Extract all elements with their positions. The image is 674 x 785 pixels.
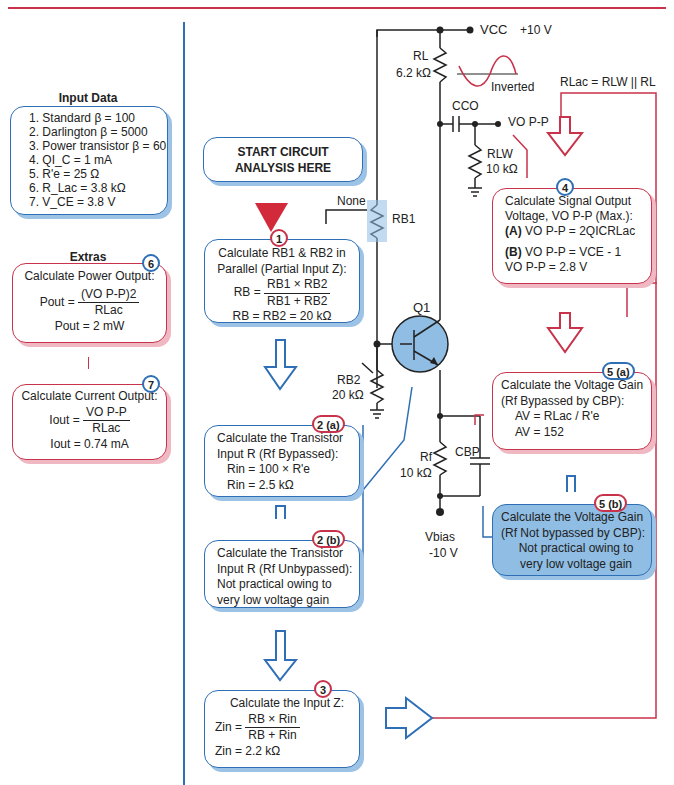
- q1-label: Q1: [413, 300, 430, 315]
- step5a-line1: Calculate the Voltage Gain: [501, 378, 651, 394]
- step7-box: Calculate Current Output: Iout = VO P-PR…: [12, 384, 167, 460]
- inverted-label: Inverted: [491, 80, 534, 94]
- step6-heading: Calculate Power Output:: [13, 269, 166, 285]
- step5a-eq2: AV = 152: [501, 425, 651, 441]
- rb1-label: RB1: [392, 212, 415, 226]
- step4-line1: Calculate Signal Output: [505, 194, 651, 209]
- input-item: 7. V_CE = 3.8 V: [29, 195, 167, 209]
- step5a-badge: 5 (a): [602, 362, 635, 380]
- cbp-label: CBP: [455, 445, 480, 459]
- step1-fraction: RB1 × RB2RB1 + RB2: [264, 277, 330, 309]
- step2a-box: Calculate the Transistor Input R (Rf Byp…: [204, 425, 360, 497]
- start-line2: ANALYSIS HERE: [204, 161, 362, 177]
- cco-label: CCO: [452, 99, 479, 113]
- input-item: 6. R_Lac = 3.8 kΩ: [29, 181, 167, 195]
- step6-badge: 6: [142, 254, 160, 272]
- step1-badge: 1: [270, 229, 288, 247]
- step5b-line1: Calculate the Voltage Gain: [501, 510, 651, 526]
- step7-lhs: Iout =: [49, 413, 79, 427]
- rf-label: Rf: [420, 450, 432, 464]
- step7-badge: 7: [142, 375, 160, 393]
- step2b-line1: Calculate the Transistor: [217, 546, 359, 562]
- step6-lhs: Pout =: [40, 295, 75, 309]
- step7-fraction: VO P-PRLac: [83, 405, 130, 437]
- step3-fraction: RB × RinRB + Rin: [245, 712, 299, 744]
- none-label: None: [337, 194, 366, 208]
- step4-line2: Voltage, VO P-P (Max.):: [505, 209, 651, 224]
- step5a-box: Calculate the Voltage Gain (Rf Bypassed …: [492, 372, 652, 450]
- input-item: 1. Standard β = 100: [29, 111, 167, 125]
- step7-heading: Calculate Current Output:: [13, 389, 166, 405]
- rlw-value: 10 kΩ: [486, 162, 518, 176]
- step2b-line3: Not practical owing to: [217, 577, 359, 593]
- step3-badge: 3: [314, 680, 332, 698]
- rlac-formula: RLac = RLW || RL: [560, 75, 656, 89]
- rl-value: 6.2 kΩ: [396, 66, 431, 80]
- step1-box: Calculate RB1 & RB2 in Parallel (Partial…: [204, 239, 360, 323]
- step1-result: RB = RB2 = 20 kΩ: [205, 309, 359, 325]
- step6-result: Pout = 2 mW: [13, 319, 166, 335]
- step2b-line4: very low voltage gain: [217, 593, 359, 609]
- step4-box: Calculate Signal Output Voltage, VO P-P …: [492, 188, 652, 284]
- input-item: 3. Power transistor β = 60: [29, 139, 167, 153]
- rlw-label: RLW: [487, 147, 513, 161]
- step5b-line3: Not practical owing to: [501, 541, 651, 557]
- step3-box: Calculate the Input Z: Zin = RB × RinRB …: [204, 690, 360, 768]
- step2a-line1: Calculate the Transistor: [217, 431, 359, 447]
- step4-eqB-label: (B): [505, 245, 522, 259]
- vcc-value: +10 V: [520, 23, 552, 37]
- input-data-title: Input Data: [8, 91, 168, 105]
- step2a-eq2: Rin = 2.5 kΩ: [217, 478, 359, 494]
- step4-result: VO P-P = 2.8 V: [505, 260, 651, 275]
- step5b-line4: very low voltage gain: [501, 557, 651, 573]
- input-item: 2. Darlington β = 5000: [29, 125, 167, 139]
- step2a-line2: Input R (Rf Bypassed):: [217, 447, 359, 463]
- step2b-line2: Input R (Rf Unbypassed):: [217, 562, 359, 578]
- step4-badge: 4: [556, 178, 574, 196]
- step7-result: Iout = 0.74 mA: [13, 437, 166, 453]
- step5b-line2: (Rf Not bypassed by CBP):: [501, 526, 651, 542]
- step1-line2: Parallel (Partial Input Z):: [205, 262, 359, 278]
- rf-value: 10 kΩ: [400, 466, 432, 480]
- input-data-box: 1. Standard β = 100 2. Darlington β = 50…: [10, 106, 168, 215]
- vo-label: VO P-P: [508, 115, 549, 129]
- step3-lhs: Zin =: [215, 720, 242, 734]
- step2a-eq1: Rin = 100 × R'e: [217, 462, 359, 478]
- step4-eqA: VO P-P = 2QICRLac: [525, 224, 635, 238]
- start-box: START CIRCUIT ANALYSIS HERE: [203, 137, 363, 182]
- step1-line1: Calculate RB1 & RB2 in: [205, 246, 359, 262]
- step2a-badge: 2 (a): [312, 415, 345, 433]
- step5b-badge: 5 (b): [594, 494, 627, 512]
- step2b-box: Calculate the Transistor Input R (Rf Unb…: [204, 540, 360, 608]
- rb2-label: RB2: [337, 373, 360, 387]
- step4-eqB: VO P-P = VCE - 1: [525, 245, 621, 259]
- step6-box: Calculate Power Output: Pout = (VO P-P)2…: [12, 263, 167, 343]
- vbias-label: Vbias: [425, 530, 455, 544]
- step3-result: Zin = 2.2 kΩ: [215, 744, 359, 760]
- step5a-eq1: AV = RLac / R'e: [501, 409, 651, 425]
- start-line1: START CIRCUIT: [204, 145, 362, 161]
- step2b-badge: 2 (b): [312, 530, 345, 548]
- step3-heading: Calculate the Input Z:: [215, 696, 359, 712]
- input-item: 5. R'e = 25 Ω: [29, 167, 167, 181]
- step5a-line2: (Rf Bypassed by CBP):: [501, 394, 651, 410]
- step4-eqA-label: (A): [505, 224, 522, 238]
- vcc-label: VCC: [480, 22, 507, 37]
- step6-fraction: (VO P-P)2RLac: [78, 287, 139, 319]
- input-item: 4. QI_C = 1 mA: [29, 153, 167, 167]
- extras-connector: [88, 357, 89, 369]
- rb2-value: 20 kΩ: [332, 388, 364, 402]
- step5b-box: Calculate the Voltage Gain (Rf Not bypas…: [492, 504, 652, 576]
- step1-lhs: RB =: [234, 285, 261, 299]
- rl-label: RL: [413, 49, 428, 63]
- vbias-value: -10 V: [429, 546, 458, 560]
